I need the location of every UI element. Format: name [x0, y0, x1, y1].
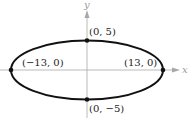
point-bottom — [85, 97, 90, 102]
point-right — [161, 68, 166, 73]
point-top — [85, 38, 90, 43]
label-left: (−13, 0) — [22, 57, 64, 68]
y-axis-arrow-icon — [85, 10, 90, 18]
label-right: (13, 0) — [124, 57, 157, 68]
label-bottom: (0, −5) — [89, 103, 124, 114]
x-axis-label: x — [182, 64, 188, 75]
point-left — [9, 68, 14, 73]
label-top: (0, 5) — [89, 26, 116, 37]
y-axis-label: y — [83, 0, 90, 10]
x-axis-arrow-icon — [172, 68, 180, 73]
ellipse-graph: x y (0, 5) (−13, 0) (13, 0) (0, −5) — [0, 0, 190, 120]
